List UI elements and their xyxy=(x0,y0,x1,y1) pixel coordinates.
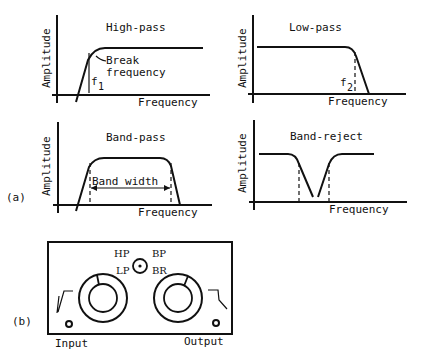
x-axis-label: Frequency xyxy=(138,206,198,219)
selector-label-br: BR xyxy=(152,265,167,276)
response-curve-left xyxy=(259,154,313,197)
annotation: Band width xyxy=(92,175,158,188)
filter-diagram: Amplitude Frequency High-pass Break freq… xyxy=(0,0,424,360)
selector-label-lp: LP xyxy=(116,265,130,276)
dial-pointer-icon xyxy=(97,275,99,285)
panel-title: Band-pass xyxy=(106,131,166,144)
y-axis-label: Amplitude xyxy=(236,133,249,193)
panel-title: High-pass xyxy=(106,21,166,34)
panel-low-pass: Amplitude Frequency Low-pass f 2 xyxy=(236,15,406,108)
right-frequency-dial[interactable] xyxy=(154,274,202,322)
panel-band-reject: Amplitude Frequency Band-reject xyxy=(236,120,407,216)
dial-inner-knob-icon[interactable] xyxy=(164,284,192,312)
marker-f: f xyxy=(91,75,98,88)
x-axis-label: Frequency xyxy=(138,96,198,109)
dial-outer-ring-icon xyxy=(154,274,202,322)
panel-title: Band-reject xyxy=(290,130,363,143)
output-jack-icon[interactable] xyxy=(213,320,219,326)
left-frequency-dial[interactable] xyxy=(79,274,127,322)
y-axis-label: Amplitude xyxy=(40,136,53,196)
dial-pointer-icon xyxy=(184,276,188,286)
panel-title: Low-pass xyxy=(289,21,342,34)
input-jack-icon[interactable] xyxy=(66,321,72,327)
device-panel xyxy=(48,242,232,334)
marker-sub: 1 xyxy=(98,81,104,92)
panel-high-pass: Amplitude Frequency High-pass Break freq… xyxy=(40,15,210,109)
marker-f: f xyxy=(340,76,347,89)
input-signal-icon xyxy=(57,291,73,313)
response-curve-right xyxy=(318,154,374,197)
filter-type-selector[interactable] xyxy=(133,259,147,273)
x-axis-label: Frequency xyxy=(328,95,388,108)
output-signal-icon xyxy=(208,290,227,309)
filter-device: (b) HP BP LP BR Input Output xyxy=(12,242,232,350)
part-a-label: (a) xyxy=(6,191,26,204)
x-axis-label: Frequency xyxy=(329,203,389,216)
selector-label-hp: HP xyxy=(114,248,130,259)
dial-outer-ring-icon xyxy=(79,274,127,322)
input-label: Input xyxy=(55,337,88,350)
annotation-leader xyxy=(96,56,106,61)
panel-band-pass: Amplitude Frequency Band-pass Band width… xyxy=(6,122,212,219)
output-label: Output xyxy=(184,335,224,348)
selector-center-icon xyxy=(138,264,141,267)
y-axis-label: Amplitude xyxy=(40,28,53,88)
marker-sub: 2 xyxy=(347,82,353,93)
arrow-right-icon xyxy=(164,185,170,191)
part-b-label: (b) xyxy=(12,315,32,328)
dial-inner-knob-icon[interactable] xyxy=(89,284,117,312)
selector-label-bp: BP xyxy=(152,248,166,259)
y-axis-label: Amplitude xyxy=(236,28,249,88)
annotation-line2: frequency xyxy=(106,66,166,79)
